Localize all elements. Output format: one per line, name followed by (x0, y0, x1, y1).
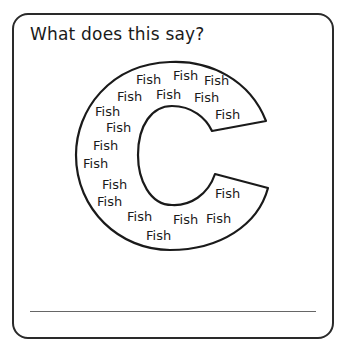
fish-word: Fish (117, 90, 142, 103)
fish-word: Fish (95, 105, 120, 118)
fish-word: Fish (136, 73, 161, 86)
fish-word: Fish (204, 74, 229, 87)
fish-word: Fish (106, 121, 131, 134)
fish-word: Fish (194, 91, 219, 104)
fish-word: Fish (97, 195, 122, 208)
answer-line[interactable] (30, 311, 316, 312)
fish-word: Fish (173, 213, 198, 226)
fish-word: Fish (83, 157, 108, 170)
fish-word: Fish (173, 69, 198, 82)
fish-word: Fish (102, 178, 127, 191)
fish-word: Fish (156, 88, 181, 101)
fish-word: Fish (93, 139, 118, 152)
fish-word: Fish (215, 108, 240, 121)
fish-word: Fish (127, 210, 152, 223)
fish-word: Fish (206, 212, 231, 225)
fish-word: Fish (146, 229, 171, 242)
fish-word: Fish (215, 187, 240, 200)
letter-c-outline (0, 0, 345, 344)
